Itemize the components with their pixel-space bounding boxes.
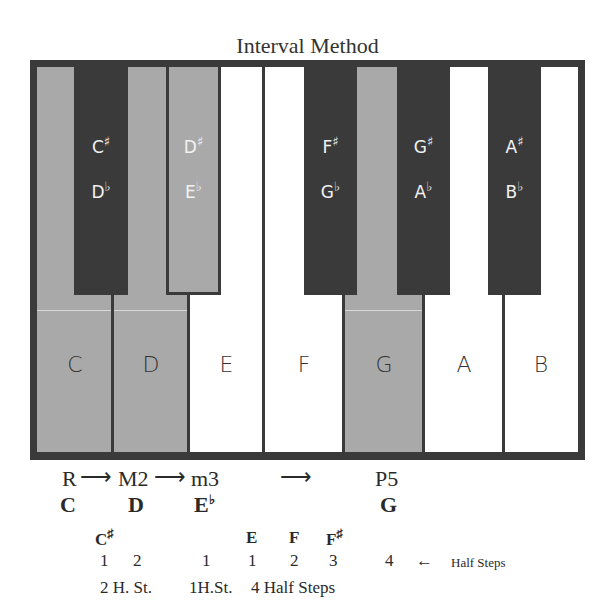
- interval-root: R: [62, 466, 77, 492]
- black-key-c-sharp[interactable]: C♯ D♭: [74, 67, 128, 295]
- sharp-label: G♯: [397, 134, 450, 157]
- summary-one-half-step: 1H.St.: [189, 578, 232, 598]
- sharp-label: F♯: [304, 134, 357, 157]
- key-label: C: [37, 352, 113, 377]
- interval-p5: P5: [375, 466, 398, 492]
- black-key-g-sharp[interactable]: G♯ A♭: [397, 67, 450, 295]
- chord-note-third: E♭: [194, 492, 215, 518]
- half-step-count: 4: [385, 551, 394, 571]
- black-key-d-sharp[interactable]: D♯ E♭: [166, 67, 221, 295]
- half-step-count: 1: [100, 551, 109, 571]
- arrow-right-icon: ⟶: [280, 464, 312, 490]
- key-label: A: [424, 352, 504, 377]
- chord-note-second: D: [128, 492, 144, 518]
- page-title: Interval Method: [0, 33, 615, 59]
- black-key-f-sharp[interactable]: F♯ G♭: [304, 67, 357, 295]
- key-divider: [262, 67, 265, 452]
- flat-label: B♭: [488, 179, 541, 202]
- chord-note-fifth: G: [380, 492, 397, 518]
- highlight-line: [345, 310, 423, 311]
- key-label: G: [344, 352, 424, 377]
- key-label: D: [113, 352, 189, 377]
- black-key-a-sharp[interactable]: A♯ B♭: [488, 67, 541, 295]
- flat-label: G♭: [304, 179, 357, 202]
- passing-note-c-sharp: C♯: [95, 526, 114, 550]
- sharp-label: C♯: [74, 134, 128, 157]
- half-step-count: 1: [202, 551, 211, 571]
- chord-note-root: C: [60, 492, 76, 518]
- key-label: F: [264, 352, 344, 377]
- key-label: E: [189, 352, 264, 377]
- flat-label: D♭: [74, 179, 128, 202]
- half-step-count: 2: [133, 551, 142, 571]
- key-label: B: [504, 352, 578, 377]
- half-step-count: 3: [329, 551, 338, 571]
- interval-m2: M2: [118, 466, 149, 492]
- half-step-count: 2: [290, 551, 299, 571]
- passing-note-f: F: [289, 528, 299, 548]
- interval-m3: m3: [191, 466, 219, 492]
- flat-label: A♭: [397, 179, 450, 202]
- passing-note-f-sharp: F♯: [326, 526, 343, 550]
- arrow-right-icon: ⟶: [154, 464, 186, 490]
- half-steps-label: Half Steps: [451, 555, 506, 571]
- summary-two-half-steps: 2 H. St.: [100, 578, 152, 598]
- sharp-label: A♯: [488, 134, 541, 157]
- arrow-left-icon: ←: [416, 551, 433, 571]
- arrow-right-icon: ⟶: [80, 464, 112, 490]
- half-step-count: 1: [248, 551, 257, 571]
- flat-label: E♭: [169, 179, 218, 202]
- sharp-label: D♯: [169, 134, 218, 157]
- passing-note-e: E: [246, 528, 257, 548]
- summary-four-half-steps: 4 Half Steps: [251, 578, 335, 598]
